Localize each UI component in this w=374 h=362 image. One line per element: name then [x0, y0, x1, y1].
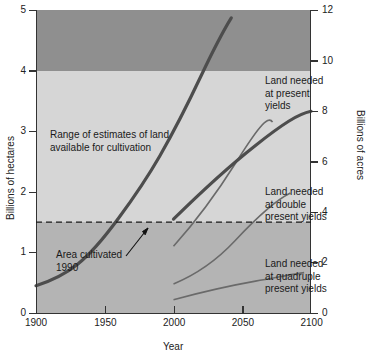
quadruple-yields-line-1: Land needed	[265, 258, 327, 271]
reference-line-layer	[0, 0, 374, 362]
double-yields-label: Land needed at double present yields	[265, 186, 327, 224]
quadruple-yields-label: Land needed at quadruple present yields	[265, 258, 327, 296]
range-of-estimates-label: Range of estimates of land available for…	[50, 129, 169, 154]
area-cultivated-line-2: 1990	[56, 262, 122, 275]
range-of-estimates-line-2: available for cultivation	[50, 142, 169, 155]
double-yields-line-3: present yields	[265, 211, 327, 224]
chart-figure: 5 4 3 2 1 0 12 10 8 6 4 2 0 1900 1950 20…	[0, 0, 374, 362]
double-yields-line-2: at double	[265, 199, 327, 212]
range-of-estimates-line-1: Range of estimates of land	[50, 129, 169, 142]
present-yields-line-1: Land needed	[265, 75, 323, 88]
quadruple-yields-line-3: present yields	[265, 283, 327, 296]
present-yields-line-3: yields	[265, 100, 323, 113]
area-cultivated-label: Area cultivated 1990	[56, 249, 122, 274]
quadruple-yields-line-2: at quadruple	[265, 271, 327, 284]
present-yields-label: Land needed at present yields	[265, 75, 323, 113]
double-yields-line-1: Land needed	[265, 186, 327, 199]
area-cultivated-line-1: Area cultivated	[56, 249, 122, 262]
present-yields-line-2: at present	[265, 88, 323, 101]
